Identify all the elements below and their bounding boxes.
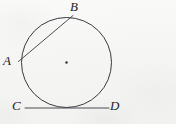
point-label-b: B <box>70 0 78 13</box>
center-point-dot <box>65 61 67 63</box>
point-label-a: A <box>3 54 11 67</box>
point-label-c: C <box>12 99 21 112</box>
diagram-canvas <box>0 0 176 124</box>
point-label-d: D <box>110 99 119 112</box>
geometry-figure: A B C D <box>0 0 176 124</box>
